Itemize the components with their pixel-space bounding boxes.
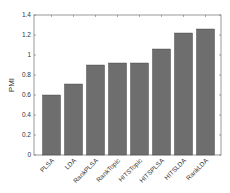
y-tick-label: 1.4 (22, 11, 31, 18)
plot-area (34, 15, 221, 155)
bar-ranktopic (108, 63, 126, 155)
bar-plsa (42, 95, 60, 155)
x-tick-label: LDA (63, 156, 77, 170)
bar-ranklda (196, 29, 214, 155)
y-axis-label: PMI (7, 78, 16, 92)
bar-hitslda (174, 33, 192, 155)
y-tick-label: 1 (27, 51, 31, 58)
plot-frame (34, 15, 221, 155)
y-tick-label: 0.2 (22, 131, 31, 138)
bar-hitsplsa (152, 49, 170, 155)
y-tick-label: 0 (27, 151, 31, 158)
y-tick-label: 0.6 (22, 91, 31, 98)
x-tick-label: PLSA (39, 156, 56, 173)
bar-chart: 00.20.40.60.811.21.4 PLSALDARankPLSARank… (0, 0, 230, 193)
bar-hitstopic (130, 63, 148, 155)
x-tick-label: HITSLDA (163, 156, 188, 181)
y-tick-label: 1.2 (22, 31, 31, 38)
y-tick-label: 0.8 (22, 71, 31, 78)
x-tick-label: HITSPLSA (138, 156, 166, 184)
bar-lda (64, 84, 82, 155)
bar-rankplsa (86, 65, 104, 155)
x-tick-label: RankLDA (185, 156, 210, 181)
y-tick-label: 0.4 (22, 111, 31, 118)
